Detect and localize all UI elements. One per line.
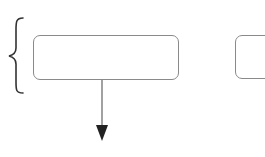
diagram-canvas (0, 0, 265, 157)
curly-brace-icon (9, 18, 23, 93)
diagram-node-1[interactable] (33, 35, 179, 80)
arrow-down-icon (96, 125, 108, 141)
diagram-node-2[interactable] (235, 35, 265, 79)
